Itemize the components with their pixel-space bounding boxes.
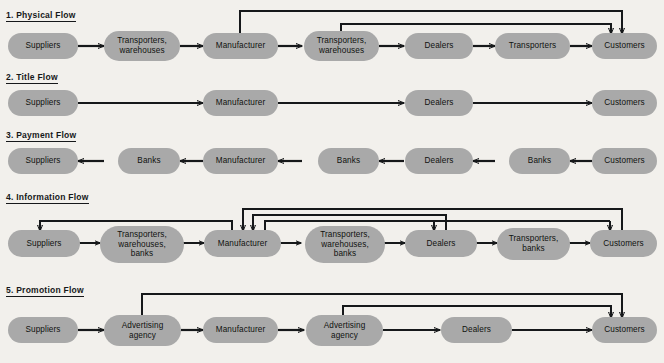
node-r2-suppliers[interactable]: Suppliers bbox=[8, 90, 78, 116]
node-r3-dealers[interactable]: Dealers bbox=[405, 148, 473, 174]
node-r4-transporters-warehouses-banks-1[interactable]: Transporters, warehouses, banks bbox=[100, 226, 184, 263]
node-r2-customers[interactable]: Customers bbox=[592, 90, 657, 116]
node-r4-customers[interactable]: Customers bbox=[590, 230, 657, 257]
node-r4-transporters-banks[interactable]: Transporters, banks bbox=[497, 228, 570, 260]
row-title-payment-flow: 3. Payment Flow bbox=[6, 130, 76, 142]
node-r5-suppliers[interactable]: Suppliers bbox=[8, 317, 78, 343]
node-r5-customers[interactable]: Customers bbox=[592, 317, 657, 343]
node-r3-banks-3[interactable]: Banks bbox=[509, 148, 570, 174]
node-r4-manufacturer[interactable]: Manufacturer bbox=[204, 230, 281, 257]
row-title-information-flow: 4. Information Flow bbox=[6, 192, 89, 204]
row-title-promotion-flow: 5. Promotion Flow bbox=[6, 285, 84, 297]
node-r1-suppliers[interactable]: Suppliers bbox=[8, 33, 78, 59]
node-r5-manufacturer[interactable]: Manufacturer bbox=[203, 317, 278, 343]
node-r1-transporters[interactable]: Transporters bbox=[495, 33, 570, 59]
node-r1-transporters-warehouses-2[interactable]: Transporters, warehouses bbox=[304, 31, 379, 61]
node-r5-advertising-agency-2[interactable]: Advertising agency bbox=[306, 315, 383, 346]
marketing-flows-diagram: 1. Physical Flow Suppliers Transporters,… bbox=[0, 0, 664, 363]
row-title-title-flow: 2. Title Flow bbox=[6, 72, 58, 84]
node-r1-customers[interactable]: Customers bbox=[592, 33, 657, 59]
node-r2-dealers[interactable]: Dealers bbox=[405, 90, 473, 116]
node-r3-customers[interactable]: Customers bbox=[592, 148, 657, 174]
node-r1-dealers[interactable]: Dealers bbox=[405, 33, 473, 59]
node-r3-banks-1[interactable]: Banks bbox=[118, 148, 180, 174]
row-title-physical-flow: 1. Physical Flow bbox=[6, 10, 76, 22]
node-r1-manufacturer[interactable]: Manufacturer bbox=[203, 33, 278, 59]
node-r5-dealers[interactable]: Dealers bbox=[441, 317, 512, 343]
node-r2-manufacturer[interactable]: Manufacturer bbox=[203, 90, 278, 116]
node-r1-transporters-warehouses-1[interactable]: Transporters, warehouses bbox=[104, 31, 180, 61]
node-r3-manufacturer[interactable]: Manufacturer bbox=[203, 148, 278, 174]
node-r4-dealers[interactable]: Dealers bbox=[405, 230, 477, 257]
node-r3-banks-2[interactable]: Banks bbox=[318, 148, 379, 174]
node-r4-transporters-warehouses-banks-2[interactable]: Transporters, warehouses, banks bbox=[305, 226, 385, 263]
node-r5-advertising-agency-1[interactable]: Advertising agency bbox=[104, 315, 181, 346]
node-r3-suppliers[interactable]: Suppliers bbox=[8, 148, 78, 174]
node-r4-suppliers[interactable]: Suppliers bbox=[8, 230, 80, 257]
